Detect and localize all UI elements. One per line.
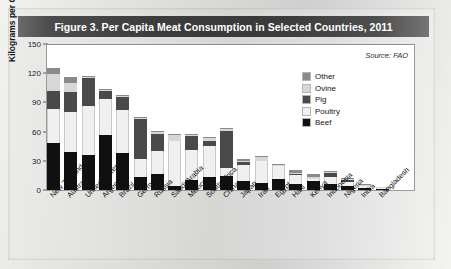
legend-item: Ovine bbox=[302, 83, 382, 95]
legend-label: Beef bbox=[315, 118, 331, 127]
legend-item: Beef bbox=[302, 117, 382, 129]
bar-segment-pig bbox=[116, 97, 129, 111]
bar-segment-poultry bbox=[237, 165, 250, 182]
bar-segment-ovine bbox=[168, 135, 181, 142]
bar-segment-pig bbox=[185, 136, 198, 151]
bar-segment-pig bbox=[47, 91, 60, 109]
bar-segment-poultry bbox=[64, 112, 77, 152]
legend-swatch-ovine-icon bbox=[302, 84, 311, 93]
bar-segment-pig bbox=[64, 92, 77, 112]
figure-container: Figure 3. Per Capita Meat Consumption in… bbox=[0, 0, 451, 269]
legend-swatch-pig-icon bbox=[302, 95, 311, 104]
figure-title-band: Figure 3. Per Capita Meat Consumption in… bbox=[18, 16, 429, 37]
bar-segment-poultry bbox=[272, 166, 285, 180]
bar-segment-poultry bbox=[99, 99, 112, 135]
y-tick-label: 120 bbox=[28, 69, 41, 78]
bar-segment-poultry bbox=[47, 109, 60, 143]
y-tick-label: 150 bbox=[28, 40, 41, 49]
legend-swatch-other-icon bbox=[302, 72, 311, 81]
legend-label: Ovine bbox=[315, 84, 336, 93]
bar-segment-poultry bbox=[203, 146, 216, 177]
bar-segment-pig bbox=[151, 134, 164, 152]
bar-segment-pig bbox=[134, 119, 147, 159]
y-axis-label: Kilograms per Capita bbox=[7, 0, 17, 62]
y-tick-label: 30 bbox=[32, 156, 41, 165]
bar-stack bbox=[134, 117, 147, 190]
bar-segment-poultry bbox=[255, 161, 268, 183]
legend-item: Pig bbox=[302, 94, 382, 106]
bar-segment-poultry bbox=[82, 106, 95, 155]
bar-segment-ovine bbox=[64, 83, 77, 92]
bar-segment-ovine bbox=[47, 74, 60, 91]
legend-item: Other bbox=[302, 71, 382, 83]
chart-legend: OtherOvinePigPoultryBeef bbox=[302, 71, 382, 129]
y-tick-label: 60 bbox=[32, 127, 41, 136]
bar-segment-pig bbox=[82, 78, 95, 106]
legend-label: Pig bbox=[315, 95, 327, 104]
legend-swatch-poultry-icon bbox=[302, 107, 311, 116]
bar-segment-pig bbox=[220, 131, 233, 168]
bar-segment-poultry bbox=[151, 151, 164, 174]
y-tick-label: 0 bbox=[37, 186, 41, 195]
legend-label: Other bbox=[315, 72, 335, 81]
bar-segment-pig bbox=[99, 91, 112, 99]
legend-swatch-beef-icon bbox=[302, 118, 311, 127]
y-tick-label: 90 bbox=[32, 98, 41, 107]
legend-item: Poultry bbox=[302, 106, 382, 118]
legend-label: Poultry bbox=[315, 107, 340, 116]
y-axis: 0306090120150 bbox=[22, 38, 48, 198]
bar-segment-poultry bbox=[134, 159, 147, 177]
x-axis-labels: New ZealandAustraliaUnited StatesArgenti… bbox=[47, 193, 414, 263]
bar-stack bbox=[47, 68, 60, 190]
page-title: Figure 3. Per Capita Meat Consumption in… bbox=[54, 21, 392, 33]
bar-segment-poultry bbox=[116, 110, 129, 153]
